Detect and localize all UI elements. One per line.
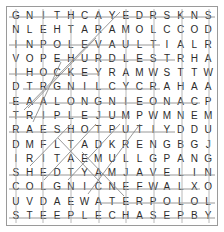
grid-cell[interactable]: B	[188, 209, 202, 223]
grid-cell[interactable]: D	[133, 9, 147, 23]
grid-cell[interactable]: A	[119, 66, 133, 80]
grid-cell[interactable]: M	[133, 66, 147, 80]
grid-cell[interactable]: H	[64, 9, 78, 23]
grid-cell[interactable]: P	[201, 95, 215, 109]
grid-cell[interactable]: C	[105, 209, 119, 223]
grid-cell[interactable]: N	[64, 80, 78, 94]
grid-cell[interactable]: E	[160, 209, 174, 223]
grid-cell[interactable]: H	[119, 209, 133, 223]
grid-cell[interactable]: D	[201, 23, 215, 37]
grid-cell[interactable]: A	[174, 95, 188, 109]
grid-cell[interactable]: C	[174, 23, 188, 37]
grid-cell[interactable]: R	[201, 38, 215, 52]
grid-cell[interactable]: Y	[91, 66, 105, 80]
grid-cell[interactable]: W	[146, 66, 160, 80]
grid-cell[interactable]: L	[188, 38, 202, 52]
grid-cell[interactable]: I	[9, 152, 23, 166]
grid-cell[interactable]: R	[146, 9, 160, 23]
grid-cell[interactable]: R	[174, 52, 188, 66]
grid-cell[interactable]: U	[201, 123, 215, 137]
grid-cell[interactable]: A	[133, 209, 147, 223]
grid-cell[interactable]: W	[146, 180, 160, 194]
grid-cell[interactable]: O	[64, 95, 78, 109]
grid-cell[interactable]: F	[36, 137, 50, 151]
grid-cell[interactable]: A	[160, 80, 174, 94]
grid-cell[interactable]: S	[146, 209, 160, 223]
grid-cell[interactable]: A	[50, 194, 64, 208]
grid-cell[interactable]: O	[188, 23, 202, 37]
grid-cell[interactable]: T	[188, 66, 202, 80]
grid-cell[interactable]: L	[174, 166, 188, 180]
grid-cell[interactable]: T	[64, 23, 78, 37]
grid-cell[interactable]: E	[91, 209, 105, 223]
grid-cell[interactable]: V	[23, 194, 37, 208]
grid-cell[interactable]: I	[36, 152, 50, 166]
grid-cell[interactable]: E	[36, 166, 50, 180]
grid-cell[interactable]: C	[91, 180, 105, 194]
grid-cell[interactable]: L	[133, 152, 147, 166]
grid-cell[interactable]: L	[78, 209, 92, 223]
grid-cell[interactable]: Y	[78, 166, 92, 180]
grid-cell[interactable]: H	[188, 52, 202, 66]
grid-cell[interactable]: Y	[105, 9, 119, 23]
grid-cell[interactable]: I	[160, 38, 174, 52]
grid-cell[interactable]: P	[174, 209, 188, 223]
grid-cell[interactable]: E	[50, 52, 64, 66]
grid-cell[interactable]: M	[105, 166, 119, 180]
grid-cell[interactable]: L	[119, 152, 133, 166]
grid-cell[interactable]: H	[50, 23, 64, 37]
grid-cell[interactable]: L	[146, 23, 160, 37]
grid-cell[interactable]: A	[160, 180, 174, 194]
grid-cell[interactable]: H	[64, 123, 78, 137]
grid-cell[interactable]: M	[119, 109, 133, 123]
grid-cell[interactable]: I	[9, 38, 23, 52]
grid-cell[interactable]: Y	[160, 123, 174, 137]
grid-cell[interactable]: R	[133, 194, 147, 208]
grid-cell[interactable]: H	[174, 80, 188, 94]
grid-cell[interactable]: K	[105, 137, 119, 151]
grid-cell[interactable]: W	[201, 66, 215, 80]
grid-cell[interactable]: O	[23, 180, 37, 194]
grid-cell[interactable]: D	[36, 194, 50, 208]
grid-cell[interactable]: A	[91, 194, 105, 208]
grid-cell[interactable]: I	[78, 80, 92, 94]
grid-cell[interactable]: E	[160, 166, 174, 180]
grid-cell[interactable]: N	[64, 180, 78, 194]
grid-cell[interactable]: U	[9, 194, 23, 208]
grid-cell[interactable]: N	[174, 109, 188, 123]
grid-cell[interactable]: E	[36, 123, 50, 137]
grid-cell[interactable]: N	[188, 152, 202, 166]
grid-cell[interactable]: D	[9, 80, 23, 94]
grid-cell[interactable]: L	[133, 38, 147, 52]
grid-cell[interactable]: P	[105, 123, 119, 137]
grid-cell[interactable]: P	[64, 209, 78, 223]
grid-cell[interactable]: L	[91, 80, 105, 94]
grid-cell[interactable]: E	[119, 9, 133, 23]
grid-cell[interactable]: S	[160, 66, 174, 80]
grid-cell[interactable]: M	[119, 23, 133, 37]
grid-cell[interactable]: X	[188, 180, 202, 194]
grid-cell[interactable]: C	[9, 180, 23, 194]
grid-cell[interactable]: L	[64, 38, 78, 52]
grid-cell[interactable]: A	[105, 38, 119, 52]
grid-cell[interactable]: L	[64, 109, 78, 123]
grid-cell[interactable]: A	[23, 123, 37, 137]
grid-cell[interactable]: A	[36, 95, 50, 109]
grid-cell[interactable]: T	[174, 66, 188, 80]
grid-cell[interactable]: E	[119, 180, 133, 194]
grid-cell[interactable]: A	[64, 152, 78, 166]
grid-cell[interactable]: T	[146, 38, 160, 52]
grid-cell[interactable]: P	[36, 38, 50, 52]
grid-cell[interactable]: W	[78, 194, 92, 208]
grid-cell[interactable]: A	[133, 166, 147, 180]
grid-cell[interactable]: N	[23, 38, 37, 52]
grid-cell[interactable]: D	[9, 137, 23, 151]
grid-cell[interactable]: H	[23, 66, 37, 80]
grid-cell[interactable]: L	[36, 180, 50, 194]
grid-cell[interactable]: D	[50, 166, 64, 180]
grid-cell[interactable]: C	[133, 80, 147, 94]
grid-cell[interactable]: H	[64, 52, 78, 66]
grid-cell[interactable]: V	[146, 166, 160, 180]
grid-cell[interactable]: E	[119, 194, 133, 208]
grid-cell[interactable]: S	[160, 9, 174, 23]
